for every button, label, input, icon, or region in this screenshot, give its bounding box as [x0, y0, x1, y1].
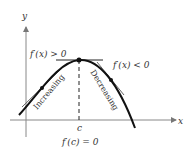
x-axis-label: x: [178, 116, 183, 126]
left-tangent-point: [40, 86, 44, 90]
y-axis-label: y: [21, 11, 28, 21]
decreasing-label: Decreasing: [88, 68, 120, 112]
right-tangent-point: [109, 78, 113, 82]
critical-derivative-label: f′(c) = 0: [61, 137, 99, 147]
derivative-diagram: y x f′(x) > 0 f′(x) < 0 c f′(c) = 0 Incr…: [0, 0, 189, 155]
peak-point: [77, 58, 82, 63]
critical-point-label: c: [77, 123, 82, 133]
right-derivative-label: f′(x) < 0: [112, 60, 150, 70]
left-derivative-label: f′(x) > 0: [29, 49, 67, 59]
function-curve: [19, 60, 135, 128]
